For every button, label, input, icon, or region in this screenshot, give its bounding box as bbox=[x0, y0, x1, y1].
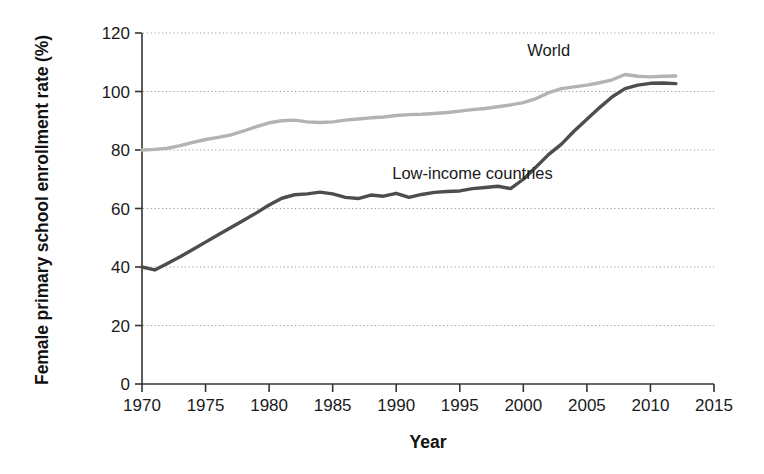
x-axis-tick-label: 2010 bbox=[632, 396, 670, 415]
y-axis-ticks-group: 020406080100120 bbox=[102, 24, 142, 394]
x-axis-ticks-group: 1970197519801985199019952000200520102015 bbox=[123, 384, 733, 415]
x-axis-tick-label: 1980 bbox=[250, 396, 288, 415]
series-label-1: World bbox=[527, 41, 570, 59]
series-label-2: Low-income countries bbox=[392, 164, 553, 182]
x-axis-tick-label: 1975 bbox=[187, 396, 225, 415]
x-axis-label: Year bbox=[142, 432, 714, 453]
chart-plot-area: 020406080100120 197019751980198519901995… bbox=[0, 0, 764, 474]
x-axis-tick-label: 2015 bbox=[695, 396, 733, 415]
x-axis-tick-label: 1995 bbox=[441, 396, 479, 415]
y-axis-tick-label: 40 bbox=[111, 258, 130, 277]
x-axis-tick-label: 2000 bbox=[504, 396, 542, 415]
x-axis-tick-label: 2005 bbox=[568, 396, 606, 415]
y-axis-tick-label: 0 bbox=[121, 375, 130, 394]
y-axis-tick-label: 60 bbox=[111, 200, 130, 219]
chart-container: Female primary school enrollment rate (%… bbox=[0, 0, 764, 474]
x-axis-tick-label: 1970 bbox=[123, 396, 161, 415]
y-axis-tick-label: 20 bbox=[111, 317, 130, 336]
x-axis-tick-label: 1990 bbox=[377, 396, 415, 415]
y-axis-tick-label: 100 bbox=[102, 83, 130, 102]
x-axis-tick-label: 1985 bbox=[314, 396, 352, 415]
y-axis-tick-label: 120 bbox=[102, 24, 130, 43]
y-axis-tick-label: 80 bbox=[111, 141, 130, 160]
